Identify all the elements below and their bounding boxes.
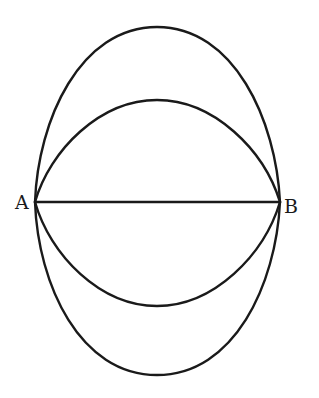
inner-lower-arc xyxy=(35,202,280,306)
outer-lower-arc xyxy=(35,202,280,375)
diagram-canvas: A B xyxy=(0,0,319,398)
point-a-label: A xyxy=(14,191,29,213)
point-b-label: B xyxy=(284,195,298,217)
inner-upper-arc xyxy=(35,100,280,202)
outer-upper-arc xyxy=(35,27,280,202)
